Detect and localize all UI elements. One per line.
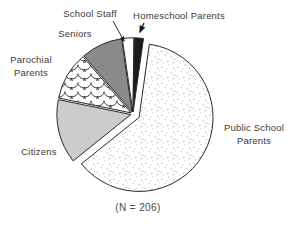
label-public-school-parents: Public School Parents	[212, 122, 296, 147]
label-parochial-line2: Parents	[2, 67, 60, 80]
label-parochial-line1: Parochial	[2, 54, 60, 67]
label-citizens: Citizens	[12, 146, 66, 159]
label-homeschool-parents: Homeschool Parents	[130, 10, 228, 23]
homeschool-parents-leader-arrow	[140, 23, 144, 32]
pie-chart-figure: School Staff Homeschool Parents Seniors …	[0, 0, 297, 229]
label-parochial-parents: Parochial Parents	[2, 54, 60, 79]
pie-chart-canvas	[0, 0, 297, 229]
label-school-staff: School Staff	[58, 8, 122, 21]
school-staff-leader-arrow	[113, 21, 124, 41]
pie-slices-group	[57, 38, 213, 192]
sample-size-caption: (N = 206)	[93, 202, 183, 214]
label-public-school-line1: Public School	[212, 122, 296, 135]
label-seniors: Seniors	[46, 28, 104, 41]
label-public-school-line2: Parents	[212, 135, 296, 148]
